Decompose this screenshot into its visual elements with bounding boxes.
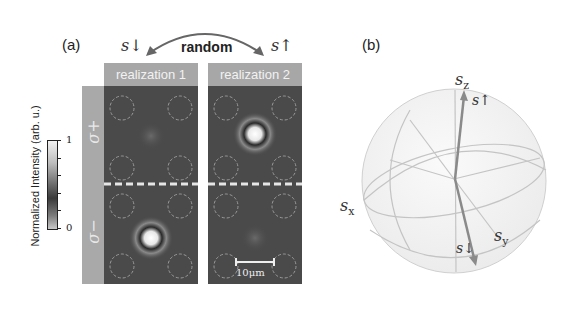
realization-1-image xyxy=(104,86,198,284)
colorbar-tick xyxy=(57,158,61,159)
axis-label-y: sy xyxy=(494,226,508,248)
random-label: random xyxy=(181,39,232,55)
spin-up-vector-label: s↑ xyxy=(472,92,491,108)
colorbar-tick xyxy=(57,140,61,141)
colorbar-max-label: 1 xyxy=(66,134,72,145)
sigma-plus-label: σ+ xyxy=(84,119,103,145)
colorbar xyxy=(47,140,58,230)
colorbar-min-label: 0 xyxy=(66,222,72,233)
axis-label-x: sx xyxy=(340,196,354,218)
spin-down-vector-label: s↓ xyxy=(456,240,475,256)
realization-2-pattern xyxy=(208,86,302,284)
colorbar-tick xyxy=(57,193,61,194)
axis-label-z: sz xyxy=(455,70,469,92)
colorbar-tick xyxy=(57,228,61,229)
realization-1-pattern xyxy=(104,86,198,284)
panel-b-label: (b) xyxy=(362,36,380,53)
sigma-minus-label: σ− xyxy=(84,219,103,245)
colorbar-tick xyxy=(57,175,61,176)
panel-a-label: (a) xyxy=(62,36,80,53)
spin-up-label: s↑ xyxy=(271,36,293,55)
realization-2-image xyxy=(208,86,302,284)
realization-1-header: realization 1 xyxy=(104,63,198,86)
colorbar-tick xyxy=(57,210,61,211)
colorbar-title: Normalized Intensity (arb. u.) xyxy=(29,91,41,261)
scale-bar-label: 10μm xyxy=(236,267,265,278)
polarization-strip xyxy=(82,86,104,284)
realization-2-header: realization 2 xyxy=(208,63,302,86)
